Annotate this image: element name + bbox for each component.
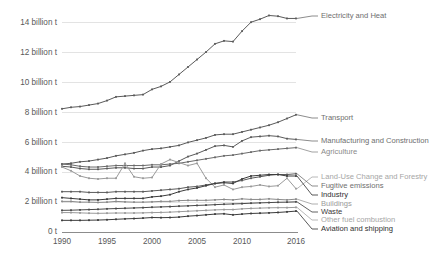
data-point-marker [97, 166, 99, 168]
data-point-marker [187, 189, 189, 191]
data-point-marker [205, 199, 207, 201]
data-point-marker [187, 215, 189, 217]
legend-label-0[interactable]: Electricity and Heat [321, 11, 387, 20]
data-point-marker [160, 200, 162, 202]
data-point-marker [187, 210, 189, 212]
data-point-marker [250, 202, 252, 204]
data-point-marker [196, 153, 198, 155]
data-point-marker [214, 145, 216, 147]
data-point-marker [61, 200, 63, 202]
data-point-marker [169, 194, 171, 196]
data-point-marker [250, 129, 252, 131]
data-point-marker [133, 94, 135, 96]
data-point-marker [187, 66, 189, 68]
legend-label-10[interactable]: Aviation and shipping [321, 224, 393, 233]
data-point-marker [115, 167, 117, 169]
data-point-marker [286, 18, 288, 20]
data-point-marker [142, 150, 144, 152]
data-point-marker [151, 148, 153, 150]
data-point-marker [268, 207, 270, 209]
data-point-marker [160, 163, 162, 165]
data-point-marker [250, 151, 252, 153]
legend-label-4[interactable]: Land-Use Change and Forestry [321, 172, 428, 181]
data-point-marker [268, 202, 270, 204]
data-point-marker [268, 15, 270, 17]
data-point-marker [277, 199, 279, 201]
data-point-marker [178, 200, 180, 202]
data-point-marker [160, 86, 162, 88]
data-point-marker [106, 198, 108, 200]
y-axis-tick-labels: 0 t2 billion t4 billion t6 billion t8 bi… [20, 18, 58, 236]
data-point-marker [241, 178, 243, 180]
data-point-marker [286, 211, 288, 213]
data-point-marker [205, 158, 207, 160]
leader-line-6 [297, 176, 318, 195]
data-point-marker [295, 188, 297, 190]
data-point-marker [259, 199, 261, 201]
data-point-marker [286, 175, 288, 177]
data-point-marker [61, 166, 63, 168]
data-point-marker [214, 156, 216, 158]
data-point-marker [277, 121, 279, 123]
data-point-marker [115, 208, 117, 210]
leader-line-4 [297, 177, 318, 189]
chart-svg: 0 t2 billion t4 billion t6 billion t8 bi… [0, 0, 431, 264]
data-point-marker [187, 156, 189, 158]
x-tick-label: 2000 [143, 237, 162, 246]
data-point-marker [187, 199, 189, 201]
data-point-marker [223, 213, 225, 215]
data-point-marker [70, 219, 72, 221]
data-point-marker [151, 206, 153, 208]
data-point-marker [178, 216, 180, 218]
y-tick-label: 14 billion t [20, 18, 58, 27]
data-point-marker [88, 168, 90, 170]
data-point-marker [133, 191, 135, 193]
data-point-marker [286, 199, 288, 201]
data-point-marker [241, 208, 243, 210]
data-point-marker [259, 18, 261, 20]
data-point-marker [133, 165, 135, 167]
data-point-marker [79, 161, 81, 163]
legend-label-5[interactable]: Fugitive emissions [321, 181, 384, 190]
legend-label-3[interactable]: Agriculture [321, 147, 357, 156]
x-axis-tick-labels: 199019952000200520102016 [53, 237, 306, 246]
data-point-marker [241, 186, 243, 188]
data-point-marker [106, 157, 108, 159]
data-point-marker [79, 201, 81, 203]
data-point-marker [97, 159, 99, 161]
legend-label-2[interactable]: Manufacturing and Construction [321, 136, 429, 145]
data-point-marker [232, 209, 234, 211]
data-point-marker [88, 166, 90, 168]
data-point-marker [61, 197, 63, 199]
data-point-marker [160, 217, 162, 219]
legend-label-9[interactable]: Other fuel combustion [321, 215, 395, 224]
data-point-marker [205, 214, 207, 216]
legend-label-1[interactable]: Transport [321, 113, 354, 122]
y-tick-label: 2 billion t [25, 197, 58, 206]
data-point-marker [259, 136, 261, 138]
data-point-marker [151, 190, 153, 192]
data-point-marker [250, 21, 252, 23]
data-point-marker [151, 177, 153, 179]
y-tick-label: 6 billion t [25, 138, 58, 147]
data-point-marker [79, 165, 81, 167]
data-point-marker [115, 96, 117, 98]
data-point-marker [160, 189, 162, 191]
data-point-marker [124, 198, 126, 200]
legend-leader-lines [297, 16, 318, 229]
legend-label-6[interactable]: Industry [321, 190, 348, 199]
data-point-marker [214, 134, 216, 136]
data-point-marker [178, 211, 180, 213]
data-point-marker [250, 208, 252, 210]
data-point-marker [241, 131, 243, 133]
data-point-marker [196, 187, 198, 189]
data-point-marker [79, 175, 81, 177]
data-point-marker [277, 212, 279, 214]
data-point-marker [79, 198, 81, 200]
data-point-marker [277, 15, 279, 17]
series-lines-group [61, 15, 297, 222]
data-point-marker [268, 212, 270, 214]
data-point-marker [97, 208, 99, 210]
data-point-marker [205, 149, 207, 151]
data-point-marker [241, 203, 243, 205]
